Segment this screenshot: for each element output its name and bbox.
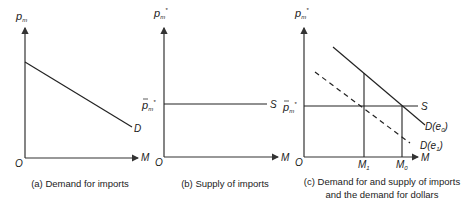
panel-c-origin-label: O [295, 157, 303, 168]
panel-a-x-axis-label: M [141, 152, 150, 163]
panel-c-y-axis-label: pm* [294, 7, 309, 20]
panel-b-y-axis-label: pm* [153, 7, 168, 20]
panel-a-demand-label: D [134, 123, 141, 134]
svg-text:pm*: pm* [282, 101, 297, 114]
import-demand-supply-diagram: pm M O D (a) Demand for imports pm* pm* … [0, 0, 465, 203]
panel-c-demand-e0-label: D(e0) [425, 121, 448, 133]
panel-b-price-level-label: pm* [141, 99, 156, 112]
panel-c-x-axis-label: M [421, 152, 430, 163]
panel-b-caption: (b) Supply of imports [181, 178, 269, 189]
panel-c-demand-e0-curve [333, 47, 425, 125]
panel-c-price-level-label: pm* [282, 101, 297, 114]
panel-c-demand-e1-label: D(e1) [420, 140, 443, 152]
panel-b-supply-label: S [270, 99, 277, 110]
panel-a-demand-curve [25, 62, 132, 127]
panel-c-caption-line1: (c) Demand for and supply of imports [304, 176, 461, 187]
panel-b-x-axis-label: M [281, 152, 290, 163]
panel-b-supply-of-imports: pm* pm* S M O (b) Supply of imports [141, 7, 290, 189]
panel-c-demand-e1-curve [315, 72, 410, 143]
svg-text:pm*: pm* [141, 99, 156, 112]
panel-a-caption: (a) Demand for imports [31, 178, 129, 189]
panel-a-y-axis-label: pm [15, 10, 27, 23]
panel-a-origin-label: O [15, 158, 23, 169]
panel-b-origin-label: O [155, 157, 163, 168]
panel-c-m1-label: M1 [358, 159, 370, 171]
panel-c-demand-supply-dollars: pm* pm* S D(e0) D(e1) M O M1 M0 (c) Dema… [282, 7, 460, 200]
panel-c-caption-line2: and the demand for dollars [325, 189, 438, 200]
panel-c-m0-label: M0 [396, 159, 408, 171]
panel-a-demand-for-imports: pm M O D (a) Demand for imports [15, 10, 150, 189]
panel-c-supply-label: S [421, 101, 428, 112]
